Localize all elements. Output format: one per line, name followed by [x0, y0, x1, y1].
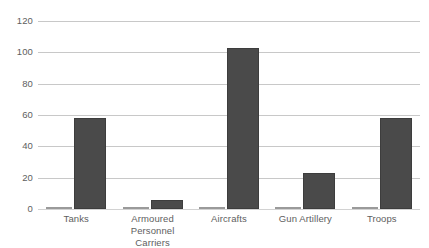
x-axis-tick-label-line: Personnel Carriers	[114, 225, 190, 248]
bar	[275, 207, 301, 209]
x-axis-tick-label: Aircrafts	[191, 213, 267, 225]
x-axis-tick-label: Tanks	[38, 213, 114, 225]
bar-group	[344, 21, 420, 209]
x-axis-tick-label-line: Gun Artillery	[267, 213, 343, 225]
bar	[151, 200, 183, 209]
bar-group	[267, 21, 343, 209]
x-axis-tick-label-line: Armoured	[114, 213, 190, 225]
x-axis-tick-label-line: Tanks	[38, 213, 114, 225]
y-axis-tick-label: 60	[3, 110, 33, 120]
y-axis-tick-label: 20	[3, 173, 33, 183]
bar	[380, 118, 412, 209]
bar	[227, 48, 259, 209]
x-axis-tick-label-line: Troops	[344, 213, 420, 225]
bar-group	[38, 21, 114, 209]
y-axis-tick-label: 40	[3, 142, 33, 152]
bar-group	[191, 21, 267, 209]
bar-group	[114, 21, 190, 209]
bar	[74, 118, 106, 209]
x-axis-labels: TanksArmouredPersonnel CarriersAircrafts…	[38, 213, 420, 248]
y-axis-tick-label: 120	[3, 16, 33, 26]
gridline-0	[38, 209, 420, 210]
y-axis-tick-label: 100	[3, 48, 33, 58]
bar	[46, 207, 72, 209]
x-axis-tick-label-line: Aircrafts	[191, 213, 267, 225]
x-axis-tick-label: Gun Artillery	[267, 213, 343, 225]
bar	[199, 207, 225, 209]
x-axis-tick-label: Troops	[344, 213, 420, 225]
bar	[352, 207, 378, 209]
x-axis-tick-label: ArmouredPersonnel Carriers	[114, 213, 190, 248]
y-axis-tick-label: 80	[3, 79, 33, 89]
bars-layer	[38, 21, 420, 209]
bar	[303, 173, 335, 209]
y-axis-tick-label: 0	[3, 204, 33, 214]
y-axis-labels: 020406080100120	[0, 21, 33, 209]
bar	[123, 207, 149, 209]
bar-chart: 020406080100120 TanksArmouredPersonnel C…	[0, 0, 429, 248]
